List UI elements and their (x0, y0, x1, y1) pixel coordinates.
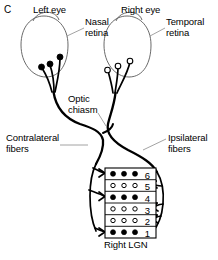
leader-temporal-retina (150, 28, 165, 36)
lgn-layer-number-1: 1 (142, 228, 153, 239)
lgn-layer-number-3: 3 (142, 205, 153, 216)
lgn-layer-number-2: 2 (142, 216, 153, 227)
lgn-layer-number-5: 5 (142, 181, 153, 192)
ganglion-dot-filled (47, 61, 53, 67)
ganglion-dot-open (105, 67, 111, 73)
right-axon-1 (108, 71, 113, 93)
pathway-illustration (0, 0, 218, 260)
right-eye-label: Right eye (121, 5, 160, 16)
lgn-layer-5-dots (111, 183, 137, 187)
lgn-dot-open (133, 207, 137, 211)
lgn-dot-filled (111, 230, 116, 235)
lgn-layer-number-6: 6 (142, 170, 153, 181)
lgn-dot-filled (122, 171, 127, 176)
ipsilateral-tract (108, 93, 157, 172)
lgn-layer-2-dots (111, 218, 137, 222)
lgn-layer-6-dots (111, 171, 138, 176)
right-eye-group (104, 12, 151, 77)
nasal-retina-label: Nasal retina (85, 17, 109, 38)
leader-nasal-retina (67, 28, 84, 36)
ganglion-dot-filled (39, 64, 45, 70)
lgn-dot-filled (111, 195, 116, 200)
lgn-dot-filled (133, 195, 138, 200)
lgn-layer-1-dots (111, 230, 138, 235)
chevron-layer-1 (99, 228, 105, 236)
lgn-dot-open (111, 207, 115, 211)
right-lgn-label: Right LGN (104, 240, 147, 251)
lgn-dot-open (122, 207, 126, 211)
panel-letter: C (4, 4, 11, 15)
lgn-dot-open (133, 183, 137, 187)
ganglion-dot-open (127, 58, 133, 64)
left-eye-label: Left eye (33, 5, 66, 16)
lgn-dot-filled (122, 230, 127, 235)
lgn-dot-open (111, 183, 115, 187)
lgn-dot-filled (133, 230, 138, 235)
leader-ipsilateral (143, 139, 166, 150)
lgn-layer-4-dots (111, 195, 138, 200)
lgn-layer-number-4: 4 (142, 193, 153, 204)
leader-optic-chiasm (98, 113, 106, 126)
ipsilateral-fibers-label: Ipsilateral fibers (168, 133, 208, 154)
lgn-dot-open (122, 218, 126, 222)
optic-chiasm-label: Optic chiasm (68, 94, 98, 115)
lgn-dot-open (133, 218, 137, 222)
chevron-layer-4 (99, 192, 105, 201)
lgn-layer-3-dots (111, 207, 137, 211)
temporal-retina-label: Temporal retina (166, 17, 204, 38)
ganglion-dot-filled (57, 54, 63, 60)
lgn-dot-filled (133, 171, 138, 176)
ganglion-dot-open (115, 63, 121, 69)
contralateral-fibers-label: Contralateral fibers (6, 133, 59, 154)
lgn-dot-open (111, 218, 115, 222)
visual-pathway-figure: 6 5 4 3 2 1 C Left eye Right eye Nasal r… (0, 0, 218, 260)
lgn-dot-filled (122, 195, 127, 200)
lgn-dot-filled (111, 171, 116, 176)
lgn-dot-open (122, 183, 126, 187)
